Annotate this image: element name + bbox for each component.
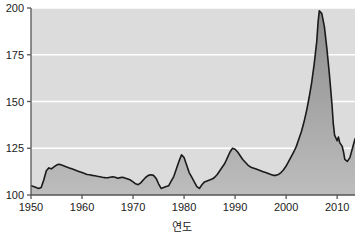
- y-axis-tick-label: 100: [6, 189, 24, 201]
- y-axis-tick-label: 200: [6, 2, 24, 14]
- x-axis-tick-label: 1990: [223, 201, 247, 213]
- x-axis-tick-label: 2000: [274, 201, 298, 213]
- x-axis-title: 연도: [172, 221, 192, 234]
- x-axis-tick-label: 2010: [325, 201, 349, 213]
- x-axis-tick-label: 1980: [172, 201, 196, 213]
- y-axis-tick-label: 175: [6, 49, 24, 61]
- y-axis-tick-label: 150: [6, 96, 24, 108]
- x-axis-tick-label: 1960: [70, 201, 94, 213]
- chart-container: 100125150175200 195019601970198019902000…: [0, 0, 364, 237]
- x-axis-tick-label: 1950: [19, 201, 43, 213]
- x-axis-tick-label: 1970: [121, 201, 145, 213]
- housing-price-index-chart: 100125150175200 195019601970198019902000…: [0, 0, 364, 237]
- y-axis-tick-label: 125: [6, 142, 24, 154]
